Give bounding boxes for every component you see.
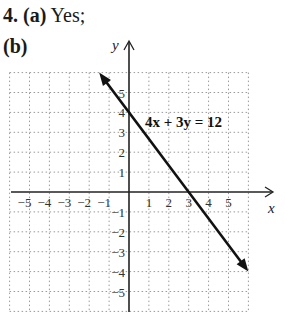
svg-text:−4: −4 — [37, 195, 51, 210]
svg-text:1: 1 — [119, 165, 126, 180]
x-axis-label: x — [267, 200, 275, 216]
svg-text:3: 3 — [119, 125, 126, 140]
svg-text:4: 4 — [205, 195, 212, 210]
svg-text:−1: −1 — [111, 205, 125, 220]
svg-text:3: 3 — [185, 195, 192, 210]
svg-text:−4: −4 — [111, 265, 125, 280]
svg-text:−2: −2 — [77, 195, 91, 210]
svg-text:−2: −2 — [111, 225, 125, 240]
svg-text:−3: −3 — [57, 195, 71, 210]
equation-label: 4x + 3y = 12 — [145, 114, 222, 130]
svg-text:−5: −5 — [111, 285, 125, 300]
svg-text:5: 5 — [225, 195, 232, 210]
svg-text:−5: −5 — [18, 195, 32, 210]
svg-text:2: 2 — [119, 145, 126, 160]
coordinate-plane: y x −5−4−3−2−112345 54321−1−2−3−4−5 4x +… — [0, 0, 285, 321]
y-axis-label: y — [110, 37, 119, 53]
svg-text:−3: −3 — [111, 245, 125, 260]
svg-text:2: 2 — [166, 195, 173, 210]
svg-text:1: 1 — [146, 195, 153, 210]
svg-text:−1: −1 — [97, 195, 111, 210]
